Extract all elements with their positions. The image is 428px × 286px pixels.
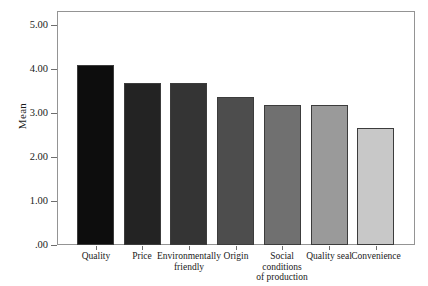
bars-layer (0, 0, 428, 286)
bar (311, 105, 348, 245)
bar (170, 83, 207, 245)
bar (124, 83, 161, 245)
bar (77, 65, 114, 245)
x-tick-mark (282, 246, 283, 250)
x-tick-mark (189, 246, 190, 250)
bar (357, 128, 394, 245)
x-tick-mark (329, 246, 330, 250)
bar (264, 105, 301, 245)
x-tick-label: Convenience (338, 251, 414, 262)
bar (217, 97, 254, 245)
x-tick-mark (236, 246, 237, 250)
bar-chart: Mean .001.002.003.004.005.00 QualityPric… (0, 0, 428, 286)
x-tick-mark (142, 246, 143, 250)
x-tick-mark (376, 246, 377, 250)
x-tick-mark (96, 246, 97, 250)
